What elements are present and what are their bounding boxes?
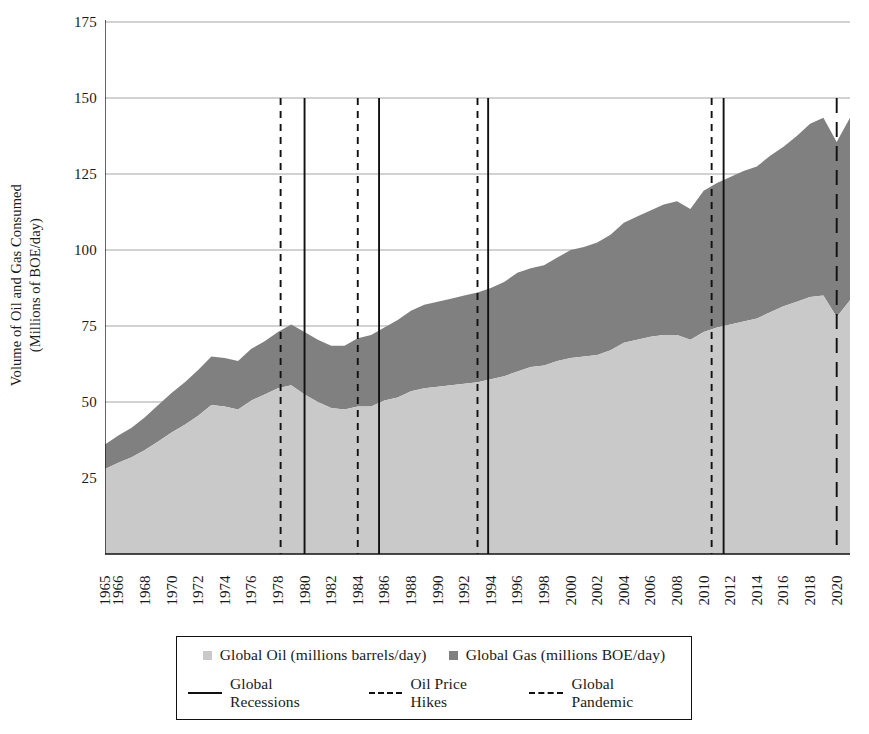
legend-item-global-gas: Global Gas (millions BOE/day)	[449, 646, 666, 664]
legend-swatch-gas-icon	[449, 651, 458, 660]
chart-figure: Volume of Oil and Gas Consumed (Millions…	[0, 0, 869, 734]
x-axis-tick-1978: 1978	[270, 560, 286, 622]
x-axis-tick-1990: 1990	[430, 560, 446, 622]
x-axis-tick-labels: 1965196619681970197219741976197819801982…	[105, 560, 850, 630]
x-axis-tick-1968: 1968	[137, 560, 153, 622]
legend-label-global-recessions: Global Recessions	[230, 675, 347, 711]
legend-item-global-pandemic: Global Pandemic	[529, 675, 680, 711]
plot-area-wrapper: 175150125100755025	[0, 0, 869, 570]
x-axis-tick-2004: 2004	[616, 560, 632, 622]
x-axis-tick-1970: 1970	[164, 560, 180, 622]
y-axis-tick-75: 75	[82, 318, 97, 335]
y-axis-tick-125: 125	[74, 166, 97, 183]
x-axis-tick-2014: 2014	[749, 560, 765, 622]
legend-label-oil-price-hikes: Oil Price Hikes	[410, 675, 507, 711]
y-axis-tick-25: 25	[82, 470, 97, 487]
x-axis-tick-1988: 1988	[403, 560, 419, 622]
legend-swatch-oil-icon	[203, 651, 212, 660]
legend-item-oil-price-hikes: Oil Price Hikes	[369, 675, 508, 711]
x-axis-tick-1980: 1980	[297, 560, 313, 622]
plot-area	[105, 10, 850, 555]
x-axis-tick-1998: 1998	[536, 560, 552, 622]
x-axis-tick-1986: 1986	[376, 560, 392, 622]
x-axis-tick-1996: 1996	[509, 560, 525, 622]
x-axis-tick-2016: 2016	[775, 560, 791, 622]
y-axis-tick-labels: 175150125100755025	[52, 0, 105, 570]
x-axis-tick-1982: 1982	[323, 560, 339, 622]
x-axis-tick-2010: 2010	[696, 560, 712, 622]
x-axis-tick-2012: 2012	[722, 560, 738, 622]
y-axis-tick-100: 100	[74, 242, 97, 259]
legend-row-series: Global Oil (millions barrels/day) Global…	[177, 646, 691, 664]
legend-label-global-oil: Global Oil (millions barrels/day)	[220, 646, 427, 664]
x-axis-tick-1976: 1976	[243, 560, 259, 622]
x-axis-tick-1984: 1984	[350, 560, 366, 622]
x-axis-tick-1974: 1974	[217, 560, 233, 622]
x-axis-tick-2008: 2008	[669, 560, 685, 622]
x-axis-tick-1972: 1972	[190, 560, 206, 622]
x-axis-tick-2000: 2000	[563, 560, 579, 622]
legend-item-global-oil: Global Oil (millions barrels/day)	[203, 646, 427, 664]
y-axis-tick-175: 175	[74, 14, 97, 31]
legend-label-global-pandemic: Global Pandemic	[571, 675, 680, 711]
legend-label-global-gas: Global Gas (millions BOE/day)	[466, 646, 666, 664]
legend-row-events: Global Recessions Oil Price Hikes Global…	[177, 675, 691, 711]
x-axis-tick-2020: 2020	[829, 560, 845, 622]
y-axis-tick-50: 50	[82, 394, 97, 411]
x-axis-tick-2002: 2002	[589, 560, 605, 622]
y-axis-tick-150: 150	[74, 90, 97, 107]
x-axis-tick-1992: 1992	[456, 560, 472, 622]
stacked-area-chart	[105, 10, 850, 555]
x-axis-tick-1966: 1966	[110, 560, 126, 622]
x-axis-tick-1994: 1994	[483, 560, 499, 622]
legend-item-global-recessions: Global Recessions	[188, 675, 347, 711]
chart-legend: Global Oil (millions barrels/day) Global…	[176, 636, 692, 720]
x-axis-tick-2018: 2018	[802, 560, 818, 622]
x-axis-tick-2006: 2006	[642, 560, 658, 622]
